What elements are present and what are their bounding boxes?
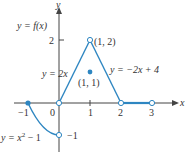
y-tick-2: 2 xyxy=(49,35,54,46)
x-tick-3: 3 xyxy=(149,107,154,118)
x-tick-1: 1 xyxy=(88,107,93,118)
fx-label: y = f(x) xyxy=(16,20,48,32)
closed-point-neg1-0 xyxy=(25,100,30,105)
pt11-label: (1, 1) xyxy=(78,77,100,89)
open-point-0-neg1 xyxy=(56,132,61,137)
seg2-label: y = −2x + 4 xyxy=(109,64,159,75)
parabola-label-tail: − 1 xyxy=(25,132,41,143)
open-point-0-0 xyxy=(56,100,61,105)
parabola-label: y = x2 − 1 xyxy=(0,131,41,143)
x-axis-arrow-icon xyxy=(172,100,179,106)
pt12-label: (1, 2) xyxy=(94,36,116,48)
x-tick-0: 0 xyxy=(50,107,55,118)
piecewise-function-graph: y x y = f(x) 2 y = 2x (1, 2) y = −2x + 4… xyxy=(0,0,187,153)
seg1-label: y = 2x xyxy=(41,68,68,79)
y-axis-label: y xyxy=(55,0,61,10)
open-point-2-0 xyxy=(118,100,123,105)
y-value-neg1: −1 xyxy=(67,130,78,141)
closed-point-1-1 xyxy=(88,70,93,75)
x-axis-label: x xyxy=(179,97,185,108)
x-tick-neg1: −1 xyxy=(18,107,29,118)
x-tick-2: 2 xyxy=(118,107,123,118)
open-point-1-2 xyxy=(87,37,92,42)
parabola-label-base: y = x xyxy=(0,132,22,143)
open-point-3-0 xyxy=(149,100,154,105)
